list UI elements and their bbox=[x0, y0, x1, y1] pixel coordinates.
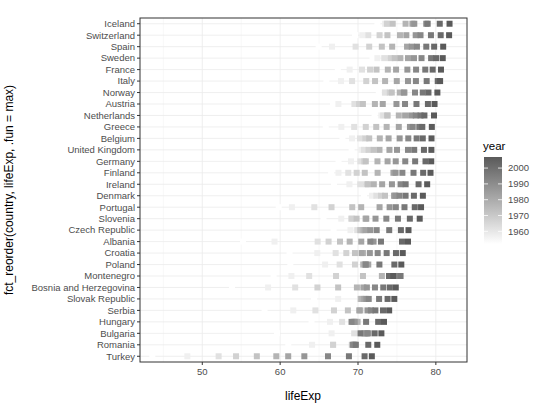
data-point bbox=[315, 239, 321, 245]
data-point bbox=[367, 227, 373, 233]
data-point bbox=[380, 307, 386, 313]
data-point bbox=[363, 262, 369, 268]
data-point bbox=[360, 101, 366, 107]
data-point bbox=[312, 307, 318, 313]
data-point bbox=[417, 216, 423, 222]
data-point bbox=[424, 181, 430, 187]
y-tick-label: Portugal bbox=[100, 202, 135, 213]
y-tick-label: Romania bbox=[97, 339, 136, 350]
legend-label: 1960 bbox=[508, 226, 529, 237]
data-point bbox=[385, 67, 391, 73]
data-point bbox=[357, 135, 363, 141]
data-point bbox=[366, 135, 372, 141]
data-point bbox=[381, 55, 387, 61]
data-point bbox=[428, 170, 434, 176]
data-point bbox=[331, 307, 337, 313]
data-point bbox=[380, 284, 386, 290]
data-point bbox=[353, 342, 359, 348]
data-point bbox=[271, 273, 277, 279]
data-point bbox=[309, 319, 315, 325]
data-point bbox=[390, 273, 396, 279]
data-point bbox=[372, 112, 378, 118]
data-point bbox=[365, 342, 371, 348]
y-tick-label: Croatia bbox=[104, 247, 135, 258]
data-point bbox=[382, 193, 388, 199]
data-point bbox=[413, 67, 419, 73]
data-point bbox=[352, 262, 358, 268]
data-point bbox=[359, 67, 365, 73]
data-point bbox=[229, 284, 235, 290]
data-point bbox=[414, 44, 420, 50]
data-point bbox=[386, 227, 392, 233]
x-tick-label: 60 bbox=[275, 366, 286, 377]
data-point bbox=[405, 239, 411, 245]
data-point bbox=[425, 101, 431, 107]
data-point bbox=[399, 170, 405, 176]
data-point bbox=[419, 124, 425, 130]
data-point bbox=[216, 353, 222, 359]
data-point bbox=[425, 21, 431, 27]
legend-label: 1970 bbox=[508, 210, 529, 221]
data-point bbox=[372, 330, 378, 336]
data-point bbox=[328, 170, 334, 176]
plot-panel bbox=[140, 18, 467, 362]
data-point bbox=[149, 353, 155, 359]
data-point bbox=[311, 204, 317, 210]
data-point bbox=[393, 158, 399, 164]
data-point bbox=[375, 170, 381, 176]
data-point bbox=[421, 147, 427, 153]
data-point bbox=[325, 353, 331, 359]
data-point bbox=[402, 101, 408, 107]
data-point bbox=[409, 44, 415, 50]
data-point bbox=[357, 181, 363, 187]
data-point bbox=[374, 55, 380, 61]
data-point bbox=[335, 101, 341, 107]
data-point bbox=[438, 32, 444, 38]
data-point bbox=[309, 342, 315, 348]
data-point bbox=[407, 216, 413, 222]
data-point bbox=[383, 216, 389, 222]
y-tick-label: Ireland bbox=[106, 179, 135, 190]
data-point bbox=[394, 78, 400, 84]
data-point bbox=[335, 170, 341, 176]
data-point bbox=[393, 284, 399, 290]
data-point bbox=[376, 262, 382, 268]
data-point bbox=[418, 204, 424, 210]
data-point bbox=[403, 181, 409, 187]
data-point bbox=[288, 273, 294, 279]
data-point bbox=[396, 124, 402, 130]
data-point bbox=[398, 262, 404, 268]
data-point bbox=[292, 284, 298, 290]
data-point bbox=[371, 147, 377, 153]
data-point bbox=[366, 44, 372, 50]
data-point bbox=[438, 67, 444, 73]
data-point bbox=[403, 21, 409, 27]
data-point bbox=[413, 78, 419, 84]
data-point bbox=[338, 78, 344, 84]
data-point bbox=[410, 124, 416, 130]
data-point bbox=[360, 273, 366, 279]
data-point bbox=[358, 204, 364, 210]
data-point bbox=[351, 330, 357, 336]
data-point bbox=[416, 181, 422, 187]
data-point bbox=[440, 55, 446, 61]
data-point bbox=[372, 307, 378, 313]
data-point bbox=[375, 319, 381, 325]
data-point bbox=[386, 147, 392, 153]
data-point bbox=[363, 78, 369, 84]
data-point bbox=[287, 262, 293, 268]
data-point bbox=[306, 273, 312, 279]
data-point bbox=[440, 44, 446, 50]
data-point bbox=[381, 319, 387, 325]
data-point bbox=[377, 204, 383, 210]
data-point bbox=[351, 124, 357, 130]
data-point bbox=[349, 319, 355, 325]
data-point bbox=[405, 78, 411, 84]
data-point bbox=[391, 296, 397, 302]
y-tick-label: Montenegro bbox=[84, 270, 135, 281]
y-tick-label: Czech Republic bbox=[68, 224, 135, 235]
data-point bbox=[339, 135, 345, 141]
data-point bbox=[373, 216, 379, 222]
data-point bbox=[371, 181, 377, 187]
data-point bbox=[367, 67, 373, 73]
